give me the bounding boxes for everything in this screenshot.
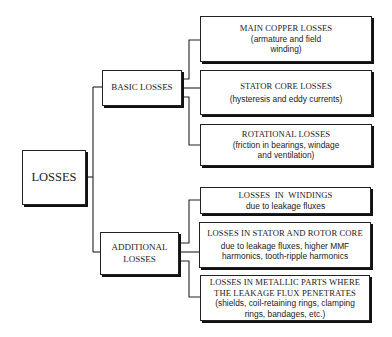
leaf-main-copper-losses: MAIN COPPER LOSSES (armature and field w… xyxy=(200,16,372,62)
leaf-stator-core-losses: STATOR CORE LOSSES (hysteresis and eddy … xyxy=(200,70,372,115)
root-label: LOSSES xyxy=(31,170,76,185)
leaf-losses-stator-rotor-core: LOSSES IN STATOR AND ROTOR CORE due to l… xyxy=(199,222,371,268)
branch-label-line-1: ADDITIONAL xyxy=(112,242,168,254)
leaf-losses-in-windings: LOSSES IN WINDINGS due to leakage fluxes xyxy=(200,187,371,214)
leaf-title: LOSSES IN WINDINGS xyxy=(239,190,333,201)
leaf-detail: (shields, coil-retaining rings, clamping xyxy=(215,298,355,309)
leaf-title: MAIN COPPER LOSSES xyxy=(240,23,333,34)
leaf-detail: due to leakage fluxes, higher MMF xyxy=(221,241,349,252)
leaf-losses-metallic-parts: LOSSES IN METALLIC PARTS WHERE THE LEAKA… xyxy=(200,275,370,321)
leaf-detail: (friction in bearings, windage xyxy=(233,140,340,151)
leaf-detail: and ventilation) xyxy=(258,150,315,161)
leaf-title: ROTATIONAL LOSSES xyxy=(242,129,330,140)
branch-node-basic-losses: BASIC LOSSES xyxy=(102,70,182,106)
branch-node-additional-losses: ADDITIONAL LOSSES xyxy=(100,232,179,275)
leaf-detail: harmonics, tooth-ripple harmonics xyxy=(222,251,348,262)
leaf-detail: due to leakage fluxes xyxy=(246,201,325,212)
leaf-detail: (armature and field xyxy=(251,34,321,45)
leaf-title: LOSSES IN STATOR AND ROTOR CORE xyxy=(207,228,363,239)
leaf-title: LOSSES IN METALLIC PARTS WHERE xyxy=(210,277,360,288)
leaf-title: STATOR CORE LOSSES xyxy=(240,81,332,92)
root-node-losses: LOSSES xyxy=(22,150,86,205)
leaf-detail: winding) xyxy=(270,44,301,55)
branch-label: BASIC LOSSES xyxy=(111,82,172,94)
branch-label-line-2: LOSSES xyxy=(123,254,156,266)
leaf-detail: (hysteresis and eddy currents) xyxy=(230,94,343,105)
leaf-rotational-losses: ROTATIONAL LOSSES (friction in bearings,… xyxy=(200,124,372,166)
leaf-detail: rings, bandages, etc.) xyxy=(245,309,326,320)
leaf-title: THE LEAKAGE FLUX PENETRATES xyxy=(214,288,356,299)
